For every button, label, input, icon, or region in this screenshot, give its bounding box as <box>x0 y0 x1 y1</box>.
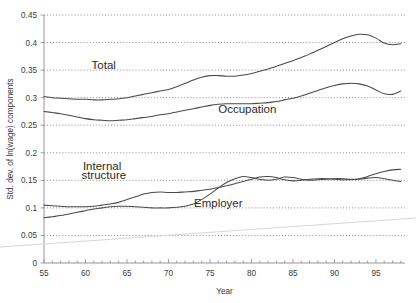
chart-container: 00.050.10.150.20.250.30.350.40.45 556065… <box>0 0 416 303</box>
x-tick-label: 80 <box>247 269 257 278</box>
x-tick-label: 70 <box>164 269 174 278</box>
series-label-occupation: Occupation <box>218 103 276 115</box>
x-tick-label: 60 <box>81 269 91 278</box>
series-label-total: Total <box>92 59 116 71</box>
y-tick-label: 0.4 <box>26 39 38 48</box>
x-tick-label: 65 <box>122 269 132 278</box>
series-label-structure: structure <box>81 169 126 181</box>
y-tick-label: 0.3 <box>26 94 38 103</box>
x-axis-title: Year <box>216 287 233 296</box>
y-tick-label: 0.35 <box>21 66 37 75</box>
faint-diagonal-artifact-line <box>0 218 416 247</box>
y-tick-label: 0.45 <box>21 11 37 20</box>
y-tick-label: 0.05 <box>21 231 37 240</box>
y-tick-label: 0.15 <box>21 176 37 185</box>
x-tick-label: 95 <box>371 269 381 278</box>
y-tick-label: 0.1 <box>26 204 38 213</box>
x-tick-label: 75 <box>205 269 215 278</box>
y-tick-label: 0.2 <box>26 149 38 158</box>
y-axis-tick-labels: 00.050.10.150.20.250.30.350.40.45 <box>21 11 37 268</box>
tickmarks-group <box>41 15 401 263</box>
faint-diagonal-artifact <box>0 218 416 247</box>
x-tick-label: 55 <box>39 269 49 278</box>
series-line-occupation <box>44 83 401 120</box>
x-tick-label: 85 <box>288 269 298 278</box>
y-tick-label: 0.25 <box>21 121 37 130</box>
y-tick-label: 0 <box>32 259 37 268</box>
x-tick-label: 90 <box>330 269 340 278</box>
series-inline-labels: TotalOccupationInternalstructureEmployer <box>81 59 276 209</box>
x-axis-tick-labels: 556065707580859095 <box>39 269 381 278</box>
y-axis-title: Std. dev. of ln(wage) components <box>6 78 15 199</box>
series-label-employer: Employer <box>194 197 243 209</box>
line-chart: 00.050.10.150.20.250.30.350.40.45 556065… <box>0 0 416 303</box>
axes-group <box>44 15 405 263</box>
